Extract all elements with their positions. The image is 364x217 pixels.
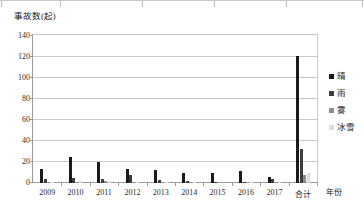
x-axis-tick-mark [289, 183, 290, 186]
bar [193, 182, 196, 183]
bar [250, 182, 253, 183]
y-axis-tick-mark [29, 140, 32, 141]
x-axis-tick-label: 2016 [238, 188, 254, 197]
bar [79, 181, 82, 183]
y-axis-tick-mark [29, 119, 32, 120]
y-axis-tick-mark [29, 161, 32, 162]
y-axis-tick-mark [29, 77, 32, 78]
bar [108, 181, 111, 183]
x-axis-tick-mark [175, 183, 176, 186]
legend-item-4[interactable]: 冰雪 [329, 119, 355, 136]
x-axis-tick-mark [118, 183, 119, 186]
bar [278, 182, 281, 183]
legend-swatch-icon [329, 74, 334, 79]
bar [307, 173, 310, 184]
y-axis-tick-label: 140 [6, 31, 30, 40]
x-axis-tick-label: 2015 [210, 188, 226, 197]
x-axis-tick-mark [147, 183, 148, 186]
bar [158, 180, 161, 183]
y-axis-tick-label: 80 [6, 94, 30, 103]
bar [51, 182, 54, 183]
bar [165, 182, 168, 183]
y-axis-tick-label: 120 [6, 52, 30, 61]
bar [214, 182, 217, 183]
x-axis-tick-label: 2012 [124, 188, 140, 197]
y-axis-tick-mark [29, 35, 32, 36]
x-axis-tick-label: 2009 [39, 188, 55, 197]
y-axis-tick-mark [29, 56, 32, 57]
x-axis-tick-mark [317, 183, 318, 186]
x-axis-tick-mark [90, 183, 91, 186]
y-axis-tick-mark [29, 182, 32, 183]
legend-swatch-icon [329, 108, 334, 113]
y-axis-tick-label: 60 [6, 115, 30, 124]
x-axis-tick-label: 2010 [68, 188, 84, 197]
x-axis-tick-mark [260, 183, 261, 186]
x-axis-tick-label: 2014 [181, 188, 197, 197]
x-axis-tick-label: 2011 [96, 188, 112, 197]
y-axis-tick-label: 0 [6, 178, 30, 187]
x-axis-tick-label: 2017 [266, 188, 282, 197]
x-axis-tick-label: 合计 [295, 188, 311, 199]
legend-item-1[interactable]: 晴 [329, 68, 355, 85]
legend-swatch-icon [329, 91, 334, 96]
legend-item-label: 晴 [337, 72, 346, 81]
legend-item-label: 雾 [337, 106, 346, 115]
legend-item-label: 冰雪 [337, 123, 355, 132]
x-axis-tick-mark [61, 183, 62, 186]
y-axis-title: 事故数(起) [14, 9, 56, 21]
legend-item-3[interactable]: 雾 [329, 102, 355, 119]
y-axis-tick-label: 20 [6, 157, 30, 166]
y-axis-tick-label: 100 [6, 73, 30, 82]
y-axis-tick-label: 40 [6, 136, 30, 145]
bar [136, 182, 139, 183]
x-axis-tick-mark [232, 183, 233, 186]
y-axis-tick-mark [29, 98, 32, 99]
bar-series-layer [33, 35, 317, 183]
x-axis-title: 年份 [326, 186, 342, 197]
bar-chart: 事故数(起) 020406080100120140 20092010201120… [0, 0, 364, 217]
legend: 晴雨雾冰雪 [329, 68, 355, 136]
x-axis-tick-mark [203, 183, 204, 186]
legend-item-2[interactable]: 雨 [329, 85, 355, 102]
x-axis-tick-label: 2013 [153, 188, 169, 197]
bar [243, 182, 246, 183]
legend-item-label: 雨 [337, 89, 346, 98]
legend-swatch-icon [329, 125, 334, 130]
